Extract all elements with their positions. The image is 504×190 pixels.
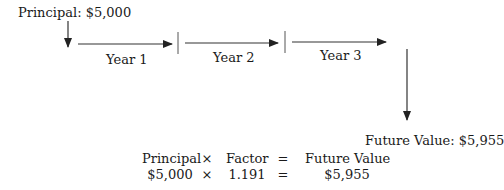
year-3-label: Year 3 <box>320 49 362 62</box>
equation-header-equals: = <box>276 152 290 165</box>
year-2-label: Year 2 <box>213 51 255 64</box>
equation-value-future-value: $5,955 <box>305 168 389 181</box>
equation-header-times: × <box>200 152 214 165</box>
equation-header-factor: Factor <box>226 152 268 165</box>
equation-value-times: × <box>200 168 214 181</box>
equation-value-principal: $5,000 <box>142 168 198 181</box>
year-1-label: Year 1 <box>106 53 148 66</box>
equation-header-principal: Principal <box>142 152 198 165</box>
equation-value-factor: 1.191 <box>226 168 268 181</box>
principal-label: Principal: $5,000 <box>18 6 131 19</box>
equation-header-future-value: Future Value <box>305 152 389 165</box>
equation-value-equals: = <box>276 168 290 181</box>
future-value-label: Future Value: $5,955 <box>365 134 504 147</box>
